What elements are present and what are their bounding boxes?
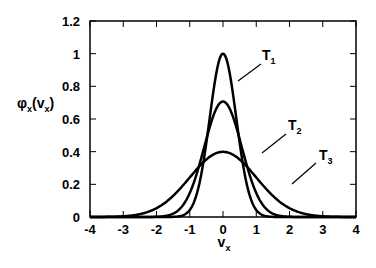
y-tick-label: 0.2	[62, 177, 80, 192]
x-tick-label: 2	[286, 222, 293, 237]
y-axis-label: φx(vx)	[17, 95, 54, 114]
x-axis-label: vx	[218, 234, 231, 253]
curve-t2	[90, 102, 356, 217]
plot-border	[90, 21, 356, 217]
series-label-t2: T2	[288, 117, 302, 136]
plot-frame	[90, 21, 356, 217]
maxwell-distribution-chart: 00.20.40.60.811.2 -4-3-2-101234 T1T2T3 v…	[0, 0, 376, 268]
x-tick-label: -3	[117, 222, 129, 237]
y-tick-label: 0.6	[62, 112, 80, 127]
leader-line-t2	[262, 134, 286, 153]
series-label-t1: T1	[262, 47, 276, 66]
x-tick-label: -2	[151, 222, 163, 237]
x-tick-label: 4	[352, 222, 360, 237]
x-tick-label: 3	[319, 222, 326, 237]
y-tick-label: 0.4	[62, 145, 81, 160]
y-tick-label: 1	[73, 47, 80, 62]
series-label-t3: T3	[319, 147, 333, 166]
y-tick-label: 0	[73, 210, 80, 225]
y-tick-label: 0.8	[62, 79, 80, 94]
curve-t1	[90, 54, 356, 217]
series-labels: T1T2T3	[238, 47, 333, 184]
x-tick-label: -4	[84, 222, 96, 237]
leader-line-t3	[292, 163, 316, 184]
y-tick-label: 1.2	[62, 14, 80, 29]
leader-line-t1	[238, 64, 261, 81]
curve-t3	[90, 152, 356, 217]
x-tick-label: -1	[184, 222, 196, 237]
x-tick-label: 1	[253, 222, 260, 237]
series-curves	[90, 54, 356, 217]
